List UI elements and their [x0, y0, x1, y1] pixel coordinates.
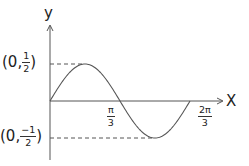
ymax-den: 2 [23, 63, 29, 74]
xtick-2pi-over-3: 2π 3 [198, 105, 212, 127]
xtick2-num: 2π [198, 105, 212, 117]
ymax-prefix: (0, [2, 55, 22, 70]
y-axis-label: y [44, 6, 53, 21]
ymin-den: 2 [25, 137, 31, 148]
ymin-suffix: ) [36, 129, 42, 144]
ymax-fraction: 1 2 [22, 51, 30, 73]
ymax-suffix: ) [30, 55, 36, 70]
xtick1-num: π [107, 105, 115, 117]
xtick-pi-over-3: π 3 [107, 105, 115, 127]
ymin-num: −1 [20, 125, 36, 137]
ymin-label: (0, −1 2 ) [0, 125, 42, 147]
ymin-prefix: (0, [0, 129, 20, 144]
xtick1-den: 3 [108, 117, 114, 128]
ymin-fraction: −1 2 [20, 125, 36, 147]
ymax-num: 1 [22, 51, 30, 63]
x-axis-label: X [226, 94, 236, 109]
ymax-label: (0, 1 2 ) [2, 51, 36, 73]
xtick2-den: 3 [202, 117, 208, 128]
